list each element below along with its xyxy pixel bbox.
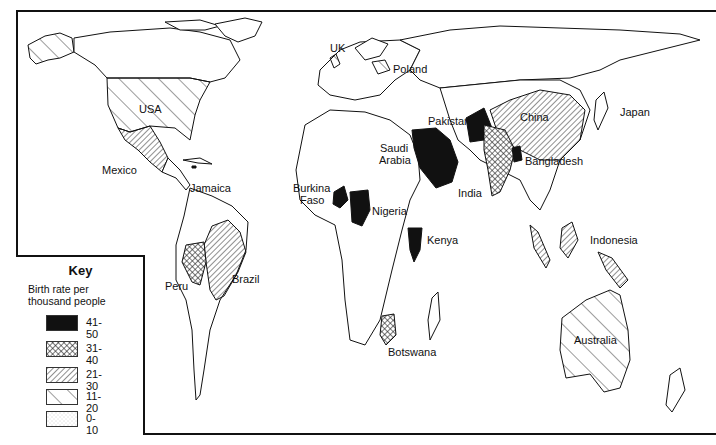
region-brazil (204, 220, 246, 300)
region-kenya (408, 228, 422, 262)
legend-range: 31-40 (86, 342, 102, 366)
region-madagascar (428, 292, 440, 340)
swatch-dense-diagonal (46, 367, 78, 383)
label-peru: Peru (165, 280, 188, 292)
label-jamaica: Jamaica (190, 182, 231, 194)
swatch-crosshatch (46, 341, 78, 357)
swatch-sparse-diagonal (46, 389, 78, 405)
label-burkina-2: Faso (300, 194, 324, 206)
legend-range: 0-10 (86, 412, 98, 436)
region-new-guinea (598, 252, 628, 288)
label-poland: Poland (393, 63, 427, 75)
swatch-solid-black (46, 315, 78, 331)
label-burkina-1: Burkina (293, 182, 330, 194)
legend-title: Key (16, 263, 145, 278)
region-canada (74, 28, 240, 82)
label-india: India (458, 187, 482, 199)
region-sumatra (530, 225, 550, 268)
map-legend: Key Birth rate per thousand people 41-50… (16, 255, 145, 435)
label-bangladesh: Bangladesh (525, 155, 583, 167)
label-usa: USA (139, 103, 162, 115)
label-kenya: Kenya (427, 234, 458, 246)
label-australia: Australia (574, 334, 617, 346)
region-cuba (183, 158, 212, 164)
swatch-stipple (46, 411, 78, 427)
label-saudi-2: Arabia (379, 154, 411, 166)
label-japan: Japan (620, 106, 650, 118)
legend-range: 41-50 (86, 316, 102, 340)
label-indonesia: Indonesia (590, 234, 638, 246)
label-botswana: Botswana (388, 346, 436, 358)
region-russia (400, 26, 700, 88)
region-alaska (28, 33, 74, 64)
legend-range: 11-20 (86, 390, 101, 414)
legend-subtitle-line-1: Birth rate per (28, 283, 148, 295)
label-saudi-1: Saudi (380, 142, 408, 154)
label-uk: UK (330, 42, 345, 54)
label-brazil: Brazil (232, 273, 260, 285)
region-jamaica (192, 166, 196, 168)
legend-subtitle: Birth rate per thousand people (28, 283, 148, 307)
region-bangladesh (512, 146, 522, 162)
label-pakistan: Pakistan (428, 115, 470, 127)
legend-subtitle-line-2: thousand people (28, 295, 148, 307)
label-nigeria: Nigeria (372, 205, 407, 217)
region-new-zealand (666, 368, 685, 412)
region-central-america (162, 158, 190, 190)
region-botswana (380, 314, 396, 345)
label-china: China (520, 111, 549, 123)
region-japan (594, 92, 608, 130)
region-borneo (560, 222, 578, 258)
label-mexico: Mexico (102, 164, 137, 176)
legend-range: 21-30 (86, 368, 102, 392)
